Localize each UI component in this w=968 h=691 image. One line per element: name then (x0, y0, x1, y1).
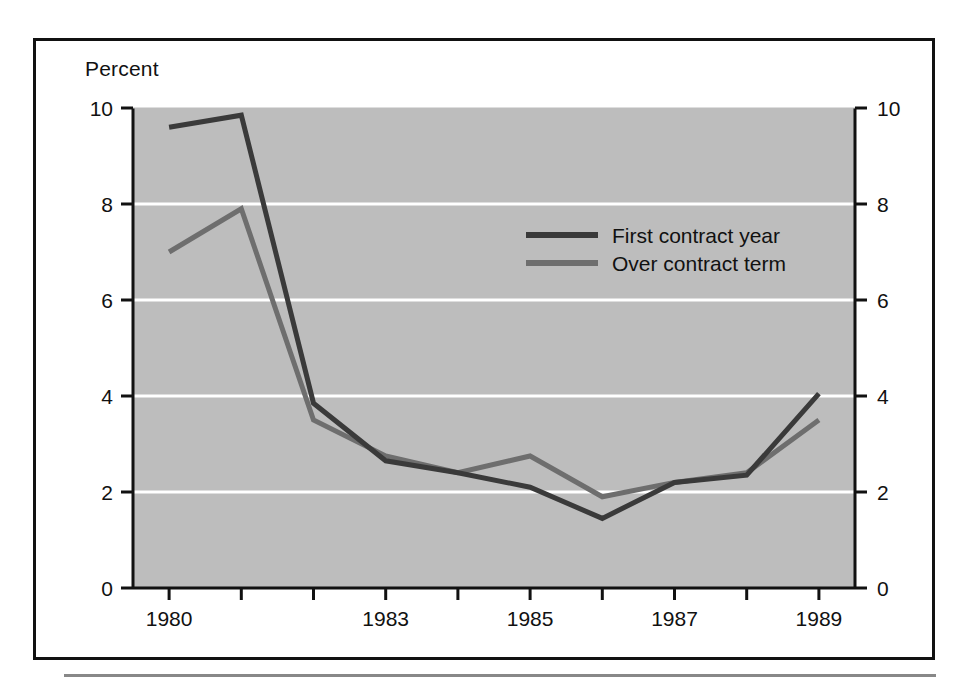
figure-container: Percent 0246810 0246810 1980198319851987… (0, 0, 968, 691)
y-tick-label-right: 4 (877, 385, 889, 408)
y-tick-label-right: 6 (877, 289, 889, 312)
y-tick-label-right: 8 (877, 193, 889, 216)
footer-rule (64, 674, 936, 677)
y-tick-label-left: 0 (101, 577, 113, 600)
y-tick-label-left: 8 (101, 193, 113, 216)
x-tick-label: 1989 (796, 607, 843, 630)
y-axis-left: 0246810 (90, 97, 133, 600)
y-tick-label-right: 10 (877, 97, 900, 120)
y-tick-label-right: 0 (877, 577, 889, 600)
y-tick-label-left: 4 (101, 385, 113, 408)
x-axis: 19801983198519871989 (146, 588, 843, 630)
legend-label: First contract year (612, 224, 780, 247)
x-tick-label: 1987 (651, 607, 698, 630)
y-axis-right: 0246810 (855, 97, 900, 600)
legend-label: Over contract term (612, 252, 786, 275)
plot-background (133, 108, 855, 588)
x-tick-label: 1985 (507, 607, 554, 630)
line-chart: 0246810 0246810 19801983198519871989 Fir… (0, 0, 968, 691)
y-tick-label-left: 10 (90, 97, 113, 120)
x-tick-label: 1983 (362, 607, 409, 630)
y-tick-label-left: 2 (101, 481, 113, 504)
y-tick-label-right: 2 (877, 481, 889, 504)
y-tick-label-left: 6 (101, 289, 113, 312)
x-tick-label: 1980 (146, 607, 193, 630)
